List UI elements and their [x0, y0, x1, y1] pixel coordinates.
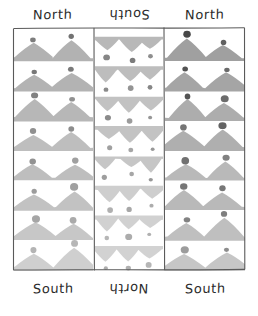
hill-row — [92, 66, 169, 91]
column-right-panel — [162, 31, 246, 271]
hill-row — [12, 67, 99, 92]
bottom-label-middle: North — [94, 276, 164, 300]
top-label-right-text: North — [185, 6, 225, 22]
hill-row — [92, 246, 169, 271]
column-left-panel — [12, 34, 99, 271]
top-label-right: North — [164, 2, 246, 26]
panels-svg — [12, 26, 246, 272]
top-label-left: North — [12, 2, 94, 26]
hill-row — [162, 246, 246, 271]
top-label-left-text: North — [33, 6, 73, 22]
hill-row — [162, 211, 246, 241]
top-label-row: North South North — [0, 2, 258, 26]
hill-row — [162, 31, 246, 61]
hill-row — [12, 240, 99, 271]
bottom-label-right-text: South — [184, 280, 225, 296]
bottom-label-row: South North South — [0, 276, 258, 300]
hill-row — [12, 183, 99, 211]
top-label-middle: South — [94, 2, 164, 26]
hill-row — [92, 97, 169, 124]
column-middle-panel — [92, 37, 169, 271]
hill-row — [92, 126, 169, 152]
hill-row — [92, 215, 169, 240]
hill-row — [162, 122, 246, 151]
bottom-label-middle-text: North — [109, 281, 149, 296]
hill-row — [162, 66, 246, 91]
bottom-label-left-text: South — [32, 280, 73, 296]
panels-container — [12, 26, 246, 272]
top-label-middle-text: South — [108, 7, 150, 22]
bottom-label-right: South — [164, 276, 246, 300]
hill-row — [12, 93, 99, 122]
hill-row — [162, 93, 246, 120]
hills-figure: North South North — [0, 0, 258, 316]
bottom-label-left: South — [12, 276, 94, 300]
hill-row — [162, 183, 246, 210]
hill-row — [162, 155, 246, 181]
hill-row — [92, 156, 169, 181]
hill-row — [92, 37, 169, 63]
hill-row — [12, 34, 99, 62]
hill-row — [12, 215, 99, 240]
hill-row — [92, 186, 169, 213]
hill-row — [12, 157, 99, 180]
hill-row — [12, 126, 99, 151]
